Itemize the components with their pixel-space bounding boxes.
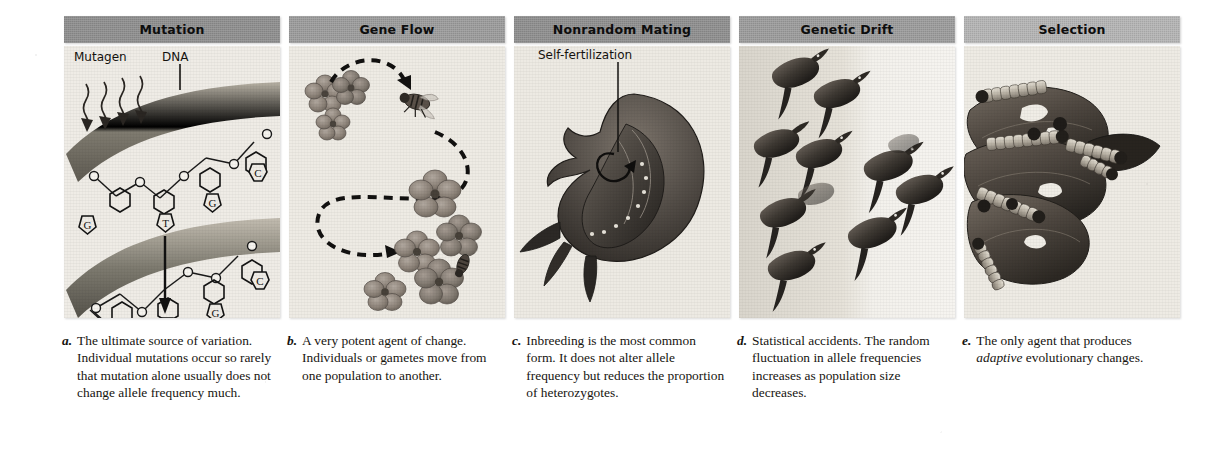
caption-mutation: a. The ultimate source of variation. Ind… — [60, 332, 278, 402]
caption-letter-e: e. — [960, 332, 971, 349]
mutation-illustration: T G C G — [64, 46, 280, 318]
caption-genetic-drift: d. Statistical accidents. The random flu… — [735, 332, 953, 402]
gene-flow-illustration — [289, 46, 505, 318]
svg-text:G: G — [209, 197, 217, 209]
panel-header-mutation: Mutation — [64, 16, 280, 43]
panel-art-selection — [964, 46, 1180, 318]
panel-header-selection: Selection — [964, 16, 1180, 43]
caption-text-c: Inbreeding is the most common form. It d… — [526, 332, 728, 402]
caption-text-a: The ultimate source of variation. Indivi… — [77, 332, 278, 402]
panel-art-nonrandom-mating: Self-fertilization — [514, 46, 730, 318]
panel-gene-flow: Gene Flow — [285, 0, 510, 384]
panel-art-mutation: T G C G — [64, 46, 280, 318]
label-dna: DNA — [162, 50, 188, 64]
panel-title-mutation: Mutation — [139, 22, 204, 37]
panel-title-nonrandom-mating: Nonrandom Mating — [553, 22, 692, 37]
caption-selection: e. The only agent that produces adaptive… — [960, 332, 1178, 367]
caption-letter-d: d. — [735, 332, 747, 349]
caption-text-e: The only agent that produces adaptive ev… — [976, 332, 1178, 367]
caption-text-b: A very potent agent of change. Individua… — [302, 332, 503, 384]
panel-title-selection: Selection — [1038, 22, 1105, 37]
selection-illustration — [964, 46, 1180, 318]
panel-title-gene-flow: Gene Flow — [359, 22, 434, 37]
genetic-drift-illustration — [739, 46, 955, 318]
panel-art-genetic-drift — [739, 46, 955, 318]
caption-gene-flow: b. A very potent agent of change. Indivi… — [285, 332, 503, 384]
panel-genetic-drift: Genetic Drift — [735, 0, 960, 402]
panel-mutation: Mutation — [60, 0, 285, 402]
svg-text:G: G — [212, 307, 220, 318]
label-self-fertilization: Self-fertilization — [538, 48, 632, 62]
caption-letter-c: c. — [510, 332, 521, 349]
panel-header-nonrandom-mating: Nonrandom Mating — [514, 16, 730, 43]
evolution-agents-figure: Mutation — [0, 0, 1207, 460]
panel-nonrandom-mating: Nonrandom Mating — [510, 0, 735, 402]
panel-art-gene-flow — [289, 46, 505, 318]
svg-text:C: C — [256, 275, 263, 287]
panel-title-genetic-drift: Genetic Drift — [801, 22, 894, 37]
caption-text-d: Statistical accidents. The random fluctu… — [752, 332, 953, 402]
panel-header-genetic-drift: Genetic Drift — [739, 16, 955, 43]
panel-selection: Selection — [960, 0, 1185, 367]
nonrandom-mating-illustration — [514, 46, 730, 318]
panel-header-gene-flow: Gene Flow — [289, 16, 505, 43]
svg-text:C: C — [254, 167, 261, 179]
label-mutagen: Mutagen — [74, 50, 127, 64]
svg-text:T: T — [162, 217, 169, 229]
caption-nonrandom-mating: c. Inbreeding is the most common form. I… — [510, 332, 728, 402]
svg-text:G: G — [84, 219, 92, 231]
caption-letter-a: a. — [60, 332, 72, 349]
caption-letter-b: b. — [285, 332, 297, 349]
